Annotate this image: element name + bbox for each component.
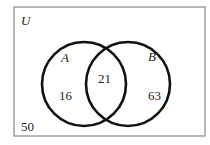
set-a-only-count: 16 bbox=[59, 88, 73, 103]
set-b-only-count: 63 bbox=[148, 88, 161, 103]
intersection-count: 21 bbox=[98, 71, 111, 86]
outside-count: 50 bbox=[21, 119, 34, 134]
venn-diagram: U A B 21 16 63 50 bbox=[0, 0, 210, 145]
set-a-label: A bbox=[60, 50, 69, 65]
universe-label: U bbox=[21, 13, 32, 28]
set-b-label: B bbox=[148, 49, 156, 64]
